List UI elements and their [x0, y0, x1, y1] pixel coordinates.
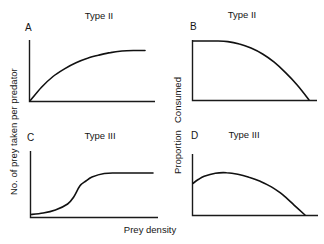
panel-c-title: Type III — [84, 130, 115, 141]
panel-d-axes — [193, 154, 319, 216]
panel-a: Type II A — [25, 10, 155, 102]
panel-c-axes — [31, 151, 159, 218]
panel-b: Type II B — [190, 9, 317, 101]
panel-c: Type III C — [27, 130, 158, 218]
y-axis-label-left: No. of prey taken per predator — [8, 68, 19, 195]
x-axis-label: Prey density — [124, 224, 177, 235]
panel-d-curve — [193, 173, 305, 215]
panel-a-letter: A — [25, 22, 32, 33]
panel-a-axes — [30, 40, 156, 102]
panel-d: Type III D — [191, 129, 318, 216]
panel-b-title: Type II — [228, 9, 257, 20]
panel-b-letter: B — [190, 21, 197, 32]
panel-c-letter: C — [27, 132, 34, 143]
panel-a-title: Type II — [85, 10, 114, 21]
functional-response-figure: Type II A Type II B Type III C Type III … — [0, 0, 324, 244]
panel-c-curve — [31, 173, 153, 215]
y-axis-label-consumed: Consumed — [172, 77, 183, 123]
panel-a-curve — [30, 50, 145, 101]
panel-d-letter: D — [191, 130, 198, 141]
y-axis-label-proportion: Proportion — [172, 130, 183, 174]
panel-b-curve — [193, 41, 309, 100]
panel-d-title: Type III — [228, 129, 259, 140]
